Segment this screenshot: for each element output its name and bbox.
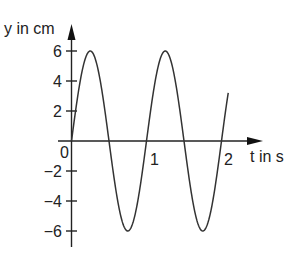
origin-label: 0: [60, 144, 69, 161]
y-axis-arrow-icon: [68, 24, 76, 40]
y-tick-label: −4: [44, 193, 62, 210]
y-axis-label: y in cm: [4, 20, 55, 37]
sine-wave-chart: y in cm 6 4 2 −2 −4 −6 0 1 2 t in s: [0, 0, 301, 263]
x-axis-label: t in s: [250, 148, 284, 165]
y-tick-label: −2: [44, 163, 62, 180]
y-tick-label: 2: [53, 103, 62, 120]
y-tick-label: −6: [44, 223, 62, 240]
x-tick-label: 2: [224, 151, 233, 168]
x-tick-label: 1: [150, 151, 159, 168]
y-tick-label: 6: [53, 43, 62, 60]
y-tick-label: 4: [53, 73, 62, 90]
x-axis-arrow-icon: [247, 137, 263, 145]
